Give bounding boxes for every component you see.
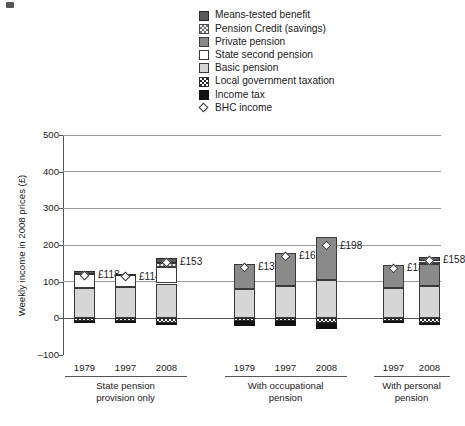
x-axis-year-label: 1979: [229, 363, 261, 373]
group-caption-line: State pension: [65, 380, 187, 392]
legend-label: Means-tested benefit: [215, 10, 310, 20]
legend-label: BHC income: [215, 103, 272, 113]
group-caption-line: With occupational: [225, 380, 347, 392]
legend-label: Basic pension: [215, 63, 278, 73]
x-axis-group-caption: With occupationalpension: [225, 380, 347, 403]
bar-segment-basic: [115, 287, 136, 318]
legend-item-state-second-pension: State second pension: [199, 49, 335, 62]
bar-stack: [115, 135, 136, 355]
y-axis-tick-mark: [59, 282, 63, 283]
bar-segment-itax: [275, 321, 296, 326]
bar-segment-basic: [419, 286, 440, 318]
bar-segment-itax: [156, 323, 177, 325]
legend-label: Income tax: [215, 90, 265, 100]
bar-segment-sps: [156, 267, 177, 284]
x-axis-group-underline: [225, 376, 347, 377]
legend-label: Private pension: [215, 37, 285, 47]
x-axis-year-label: 2008: [151, 363, 183, 373]
bar-segment-basic: [234, 289, 255, 318]
bar-stack: [234, 135, 255, 355]
state-second-pension-swatch-icon: [199, 50, 209, 60]
plot-area: 5004003002001000–100£118£114£153£139£169…: [63, 135, 441, 355]
x-axis-year-label: 1997: [378, 363, 410, 373]
bar-segment-basic: [275, 286, 296, 318]
legend-item-pension-credit: Pension Credit (savings): [199, 22, 335, 35]
y-axis-tick-label: 300: [43, 203, 59, 213]
means-swatch-icon: [199, 11, 209, 21]
bar-segment-itax: [316, 323, 337, 329]
bar-stack: [74, 135, 95, 355]
bar-stack: [275, 135, 296, 355]
legend-item-income-tax: Income tax: [199, 88, 335, 101]
legend-item-means-tested-benefit: Means-tested benefit: [199, 9, 335, 22]
group-caption-line: pension: [374, 392, 450, 404]
y-axis-tick-mark: [59, 245, 63, 246]
y-axis-tick-mark: [59, 172, 63, 173]
y-axis-tick-label: 400: [43, 167, 59, 177]
bar-segment-basic: [383, 288, 404, 319]
bar-segment-basic: [316, 280, 337, 318]
bhc-income-value-label: £158: [443, 255, 465, 265]
x-axis-year-label: 2008: [311, 363, 343, 373]
y-axis-tick-mark: [59, 208, 63, 209]
local-government-taxation-swatch-icon: [199, 77, 209, 87]
bar-segment-itax: [383, 321, 404, 323]
bar-segment-basic: [156, 284, 177, 319]
group-caption-line: With personal: [374, 380, 450, 392]
legend-label: Local government taxation: [215, 76, 335, 86]
x-axis-group-caption: With personalpension: [374, 380, 450, 403]
chart-legend: Means-tested benefit Pension Credit (sav…: [199, 9, 335, 115]
bar-segment-itax: [74, 321, 95, 323]
bhc-income-value-label: £153: [180, 257, 202, 267]
x-axis-year-label: 1997: [270, 363, 302, 373]
legend-label: State second pension: [215, 50, 313, 60]
x-axis-group-caption: State pensionprovision only: [65, 380, 187, 403]
y-axis-tick-mark: [59, 318, 63, 319]
bar-segment-itax: [234, 321, 255, 326]
bar-segment-priv: [419, 264, 440, 286]
bar-stack: [383, 135, 404, 355]
x-axis-group-underline: [65, 376, 187, 377]
x-axis-group-underline: [374, 376, 450, 377]
x-axis-year-label: 1979: [69, 363, 101, 373]
y-axis-title: Weekly income in 2008 prices (£): [16, 146, 27, 346]
group-caption-line: pension: [225, 392, 347, 404]
legend-item-private-pension: Private pension: [199, 35, 335, 48]
y-axis-tick-mark: [59, 135, 63, 136]
bar-segment-basic: [74, 288, 95, 319]
private-pension-swatch-icon: [199, 37, 209, 47]
income-tax-swatch-icon: [199, 90, 209, 100]
bar-stack: [156, 135, 177, 355]
legend-item-bhc-income: BHC income: [199, 101, 335, 114]
y-axis-tick-label: –100: [38, 350, 59, 360]
y-axis-tick-mark: [59, 355, 63, 356]
y-axis-tick-label: 100: [43, 277, 59, 287]
y-axis-tick-label: 200: [43, 240, 59, 250]
bar-stack: [419, 135, 440, 355]
group-caption-line: provision only: [65, 392, 187, 404]
bar-segment-itax: [419, 323, 440, 325]
legend-label: Pension Credit (savings): [215, 24, 326, 34]
y-axis-tick-label: 500: [43, 130, 59, 140]
bhc-income-value-label: £198: [340, 241, 362, 251]
bar-segment-itax: [115, 321, 136, 323]
figure-caption-fragment: [6, 2, 14, 8]
pension-credit-swatch-icon: [199, 24, 209, 34]
legend-item-local-government-taxation: Local government taxation: [199, 75, 335, 88]
x-axis-year-label: 2008: [414, 363, 446, 373]
y-axis-tick-label: 0: [54, 313, 59, 323]
legend-item-basic-pension: Basic pension: [199, 62, 335, 75]
x-axis-year-label: 1997: [110, 363, 142, 373]
basic-pension-swatch-icon: [199, 63, 209, 73]
bhc-income-diamond-marker-icon: [199, 103, 209, 113]
